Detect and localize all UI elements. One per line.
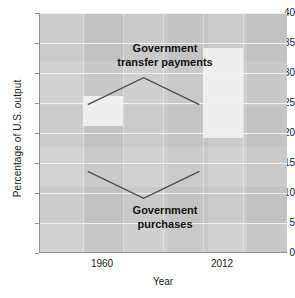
gridline-15: [40, 163, 287, 164]
y-tick-mark-0: [35, 253, 39, 254]
gridline-40: [40, 13, 287, 14]
x-tick-label-1960: 1960: [72, 258, 132, 269]
gridline-30: [40, 73, 287, 74]
annotation-purchases-line-2: purchases: [83, 217, 247, 231]
annotation-transfer-line-1: Government: [83, 41, 247, 55]
x-tick-label-2012: 2012: [192, 258, 252, 269]
annotation-purchases: Government purchases: [83, 203, 247, 231]
gridline-25: [40, 103, 287, 104]
bar-segment-transfer-1960: [83, 96, 123, 126]
chart-figure: Percentage of U.S. output 40 35 30 25 20…: [0, 0, 295, 298]
annotation-transfer-line-2: transfer payments: [83, 55, 247, 69]
gridline-10: [40, 193, 287, 194]
annotation-transfer-payments: Government transfer payments: [83, 41, 247, 69]
annotation-purchases-line-1: Government: [83, 203, 247, 217]
x-axis-title: Year: [39, 276, 287, 287]
y-axis-title: Percentage of U.S. output: [12, 29, 23, 249]
gridline-20: [40, 133, 287, 134]
